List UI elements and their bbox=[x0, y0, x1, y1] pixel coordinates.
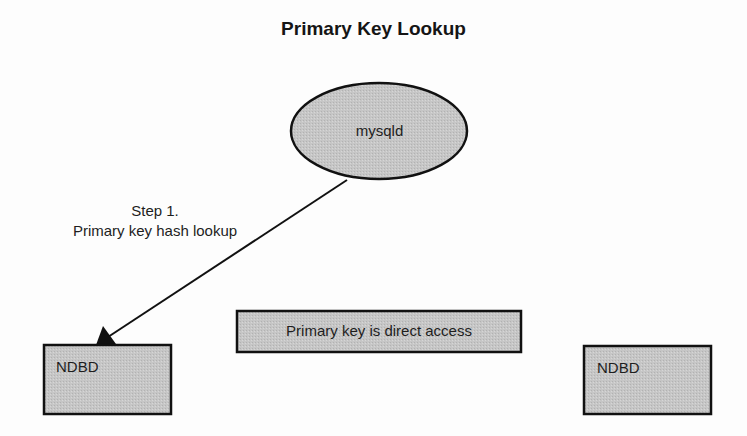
ndbd-left-node-label: NDBD bbox=[56, 358, 99, 375]
note-box-label: Primary key is direct access bbox=[237, 322, 521, 339]
step1-edge-label: Step 1. Primary key hash lookup bbox=[30, 201, 280, 241]
ndbd-right-node-label: NDBD bbox=[597, 359, 640, 376]
step1-line1: Step 1. bbox=[30, 201, 280, 221]
ndbd-right-node-shape bbox=[584, 346, 711, 414]
arrowhead-icon bbox=[96, 326, 116, 345]
step1-line2: Primary key hash lookup bbox=[30, 221, 280, 241]
mysqld-node-label: mysqld bbox=[0, 122, 747, 139]
ndbd-left-node-shape bbox=[44, 345, 171, 414]
